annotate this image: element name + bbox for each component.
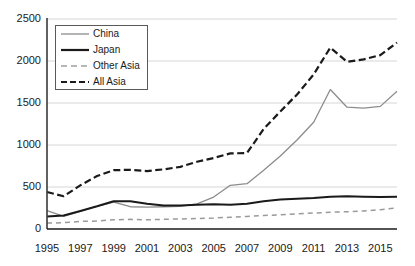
- y-tick-label: 2000: [5, 55, 41, 66]
- legend-label: China: [93, 29, 119, 39]
- y-tick-label: 1000: [5, 139, 41, 150]
- legend-item-all-asia: All Asia: [56, 74, 147, 90]
- legend-item-other-asia: Other Asia: [56, 58, 147, 74]
- y-tick-label: 2500: [5, 13, 41, 24]
- legend-swatch-line-icon: [60, 76, 90, 88]
- y-tick-label: 0: [5, 223, 41, 234]
- legend-label: Japan: [93, 45, 120, 55]
- legend-item-japan: Japan: [56, 42, 147, 58]
- legend-label: All Asia: [93, 77, 126, 87]
- legend-swatch-line-icon: [60, 44, 90, 56]
- legend-swatch-line-icon: [60, 28, 90, 40]
- legend-item-china: China: [56, 26, 147, 42]
- series-line-other-asia: [47, 208, 397, 223]
- legend-label: Other Asia: [93, 61, 140, 71]
- series-line-japan: [47, 196, 397, 216]
- y-tick-label: 1500: [5, 97, 41, 108]
- series-line-china: [47, 90, 397, 217]
- y-tick-label: 500: [5, 181, 41, 192]
- legend-swatch-line-icon: [60, 60, 90, 72]
- x-tick-label: 2015: [360, 243, 400, 254]
- chart-legend: China Japan Other Asia All Asia: [55, 25, 148, 90]
- line-chart: 05001000150020002500 1995199719992001200…: [0, 0, 415, 266]
